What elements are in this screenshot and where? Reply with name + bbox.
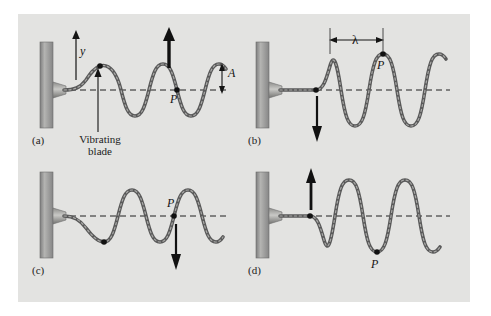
motion-arrow-head [306, 168, 316, 183]
panel-d-graphic [244, 158, 470, 302]
point-p-label-d: P [371, 257, 378, 272]
blade-tip-dot [101, 239, 107, 245]
panel-d: (d) P [244, 158, 470, 302]
support-post [256, 42, 269, 128]
amplitude-label: A [228, 66, 235, 81]
vibrating-blade-label-line1: Vibrating [79, 133, 121, 145]
panel-c: (c) P [18, 158, 244, 302]
blade-tip-dot [313, 87, 319, 93]
panel-label-d: (d) [248, 264, 261, 276]
point-p-dot [380, 51, 386, 57]
panel-a: (a) y P A Vibrating blade [18, 14, 244, 158]
point-p-dot [171, 213, 177, 219]
vibrating-blade-label: Vibrating blade [60, 133, 140, 158]
motion-arrow-head [163, 27, 175, 41]
support-post [40, 42, 53, 128]
motion-arrow-head [171, 254, 181, 270]
motion-arrow-head [312, 126, 322, 142]
panel-b: (b) λ P [244, 14, 470, 158]
blade-tip-dot [307, 213, 313, 219]
support-post [256, 172, 269, 258]
figure-background: (a) y P A Vibrating blade (b) [18, 14, 470, 302]
wavelength-label: λ [352, 32, 358, 48]
vibrating-blade-label-line2: blade [88, 145, 112, 157]
y-axis-label: y [80, 44, 85, 59]
panel-label-c: (c) [32, 264, 44, 276]
point-p-label-c: P [167, 196, 174, 211]
panel-label-b: (b) [248, 134, 261, 146]
point-p-dot [374, 249, 380, 255]
panel-c-graphic [18, 158, 244, 302]
point-p-label-a: P [170, 92, 177, 107]
panel-label-a: (a) [32, 134, 44, 146]
y-axis-arrow-head [72, 30, 80, 39]
blade-tip-dot [97, 63, 103, 69]
point-p-label-b: P [377, 58, 384, 73]
support-post [40, 172, 53, 258]
